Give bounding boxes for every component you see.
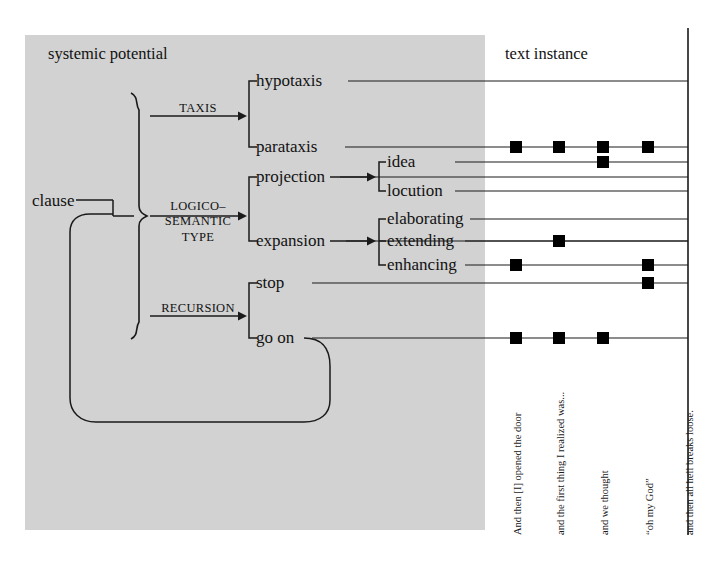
selection-marker[interactable] bbox=[642, 259, 654, 271]
system-label-line: LOGICO– bbox=[143, 198, 253, 214]
feature-projection[interactable]: projection bbox=[256, 168, 325, 185]
selection-marker[interactable] bbox=[510, 141, 522, 153]
feature-parataxis[interactable]: parataxis bbox=[256, 138, 317, 155]
system-label-line: RECURSION bbox=[143, 300, 253, 316]
system-taxis[interactable]: TAXIS bbox=[143, 100, 253, 116]
feature-go-on[interactable]: go on bbox=[256, 329, 294, 346]
feature-elaborating[interactable]: elaborating bbox=[387, 210, 463, 227]
panel-title: systemic potential bbox=[48, 46, 168, 63]
instance-title: text instance bbox=[505, 46, 588, 63]
selection-marker[interactable] bbox=[553, 332, 565, 344]
column-caption[interactable]: And then [I] opened the door bbox=[512, 413, 523, 535]
selection-marker[interactable] bbox=[510, 259, 522, 271]
column-caption[interactable]: and the first thing I realized was... bbox=[555, 392, 566, 535]
selection-marker[interactable] bbox=[553, 141, 565, 153]
feature-expansion[interactable]: expansion bbox=[256, 232, 325, 249]
diagram-svg bbox=[0, 0, 724, 562]
root-node-clause[interactable]: clause bbox=[32, 192, 74, 209]
selection-marker[interactable] bbox=[642, 141, 654, 153]
system-label-line: SEMANTIC bbox=[143, 214, 253, 230]
feature-enhancing[interactable]: enhancing bbox=[387, 256, 457, 273]
selection-marker[interactable] bbox=[553, 235, 565, 247]
feature-idea[interactable]: idea bbox=[387, 153, 415, 170]
feature-stop[interactable]: stop bbox=[256, 274, 284, 291]
column-caption[interactable]: and then all hell breaks loose. bbox=[684, 410, 695, 535]
column-caption[interactable]: “oh my God” bbox=[644, 478, 655, 535]
system-label-line: TAXIS bbox=[143, 100, 253, 116]
selection-marker[interactable] bbox=[597, 332, 609, 344]
figure-canvas: systemic potential text instance clause … bbox=[0, 0, 724, 562]
column-caption[interactable]: and we thought bbox=[599, 470, 610, 535]
selection-marker[interactable] bbox=[597, 141, 609, 153]
system-recursion[interactable]: RECURSION bbox=[143, 300, 253, 316]
feature-locution[interactable]: locution bbox=[387, 182, 443, 199]
system-label-line: TYPE bbox=[143, 229, 253, 245]
feature-hypotaxis[interactable]: hypotaxis bbox=[256, 72, 322, 89]
feature-extending[interactable]: extending bbox=[387, 232, 454, 249]
selection-marker[interactable] bbox=[642, 277, 654, 289]
selection-marker[interactable] bbox=[597, 156, 609, 168]
system-logico-semantic-type[interactable]: LOGICO–SEMANTICTYPE bbox=[143, 198, 253, 245]
selection-marker[interactable] bbox=[510, 332, 522, 344]
